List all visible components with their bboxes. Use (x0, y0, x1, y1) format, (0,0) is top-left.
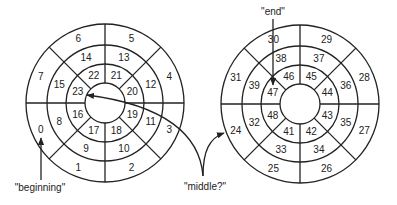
sector-number: 1 (76, 162, 82, 173)
sector-number: 33 (276, 144, 288, 155)
sector-number: 41 (283, 126, 295, 137)
sector-number: 34 (313, 144, 325, 155)
middle-annotation: "middle?" (87, 95, 227, 192)
sector-number: 14 (81, 52, 93, 63)
end-label: "end" (261, 6, 285, 17)
beginning-annotation: "beginning" (15, 138, 66, 193)
sector-number: 22 (88, 70, 100, 81)
sector-number: 17 (88, 125, 100, 136)
sector-number: 5 (129, 33, 135, 44)
sector-number: 18 (111, 125, 123, 136)
sector-number: 19 (127, 109, 139, 120)
sector-number: 12 (145, 79, 157, 90)
sector-number: 16 (72, 109, 84, 120)
sector-number: 7 (38, 71, 44, 82)
sector-number: 8 (57, 116, 63, 127)
sector-number: 42 (306, 126, 318, 137)
sector-number: 6 (76, 33, 82, 44)
sector-number: 35 (340, 117, 352, 128)
end-annotation: "end" (261, 6, 285, 85)
sector-number: 43 (322, 110, 334, 121)
sector-number: 38 (276, 53, 288, 64)
sector-number: 31 (230, 72, 242, 83)
sector-number: 44 (322, 87, 334, 98)
sector-number: 10 (118, 143, 130, 154)
sector-number: 23 (72, 86, 84, 97)
track-circle (280, 84, 320, 124)
sector-number: 48 (267, 110, 279, 121)
sector-number: 25 (268, 163, 280, 174)
sector-number: 28 (359, 72, 371, 83)
sector-number: 39 (249, 80, 261, 91)
middle-arrow-to-sector-24 (203, 133, 224, 176)
left-disk: 65432107141312111098152221201918171623 (26, 24, 184, 182)
sector-number: 45 (306, 71, 318, 82)
sector-number: 32 (249, 117, 261, 128)
middle-label: "middle?" (184, 181, 227, 192)
sector-number: 2 (129, 162, 135, 173)
sector-number: 3 (166, 124, 172, 135)
sector-number: 15 (54, 79, 66, 90)
sector-number: 27 (359, 125, 371, 136)
sector-number: 29 (321, 34, 333, 45)
sector-number: 24 (230, 125, 242, 136)
sector-number: 46 (283, 71, 295, 82)
beginning-label: "beginning" (15, 182, 66, 193)
sector-number: 36 (340, 80, 352, 91)
track-circle (85, 83, 125, 123)
sector-number: 20 (127, 86, 139, 97)
sector-number: 4 (166, 71, 172, 82)
sector-number: 0 (38, 124, 44, 135)
sector-number: 9 (83, 143, 89, 154)
disk-sector-diagram: 65432107141312111098152221201918171623 3… (0, 0, 397, 205)
sector-number: 13 (118, 52, 130, 63)
sector-number: 37 (313, 53, 325, 64)
sector-number: 21 (111, 70, 123, 81)
sector-number: 47 (267, 87, 279, 98)
sector-number: 11 (146, 116, 157, 127)
sector-number: 26 (321, 163, 333, 174)
right-disk: 3029282726252431383736353433323946454443… (221, 25, 379, 183)
